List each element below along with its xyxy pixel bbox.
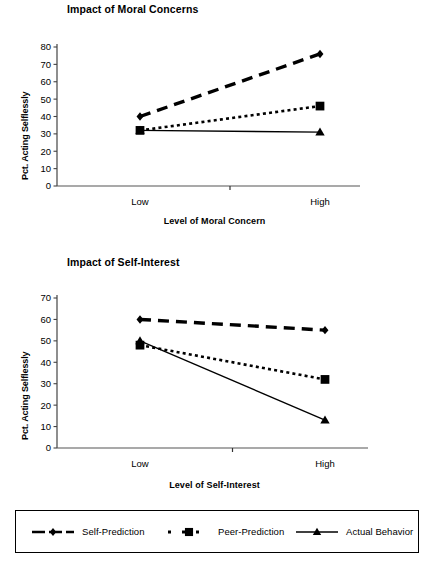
legend-item-peer-prediction[interactable]: Peer-Prediction (166, 525, 284, 539)
series-line-self-prediction (140, 319, 325, 330)
y-tick-label: 60 (40, 76, 51, 87)
y-tick-label: 0 (46, 442, 51, 453)
legend-key-triangle-icon (294, 525, 340, 539)
y-tick-label: 50 (40, 94, 51, 105)
chart-moral-concerns: Impact of Moral Concerns Pct. Acting Sel… (0, 0, 429, 240)
y-tick-label: 20 (40, 400, 51, 411)
x-tick-label: High (315, 458, 335, 469)
y-tick-label: 40 (40, 357, 51, 368)
series-line-actual-behavior (140, 130, 320, 132)
legend-key-diamond-icon (30, 525, 76, 539)
series-peer-prediction-low-square-marker (136, 126, 145, 135)
series-self-prediction-low-diamond-marker (137, 112, 144, 120)
series-self-prediction-high-diamond-marker (317, 50, 324, 58)
y-tick-label: 50 (40, 335, 51, 346)
legend-item-self-prediction[interactable]: Self-Prediction (30, 525, 145, 539)
y-tick-label: 40 (40, 111, 51, 122)
series-self-prediction-high-diamond-marker (322, 326, 329, 334)
series-line-peer-prediction (140, 345, 325, 379)
y-tick-label: 30 (40, 378, 51, 389)
series-line-self-prediction (140, 54, 320, 117)
x-tick-label: High (310, 196, 330, 207)
chart1-plot-area: 01020304050607080LowHigh (0, 0, 429, 240)
chart-self-interest: Impact of Self-Interest Pct. Acting Self… (0, 248, 429, 503)
y-tick-label: 60 (40, 314, 51, 325)
series-line-actual-behavior (140, 341, 325, 420)
x-tick-label: Low (131, 458, 149, 469)
legend-square-marker (185, 527, 193, 535)
legend: Self-PredictionPeer-PredictionActual Beh… (15, 510, 419, 553)
series-peer-prediction-high-square-marker (321, 375, 330, 384)
legend-label: Actual Behavior (346, 526, 413, 537)
legend-key-square-icon (166, 525, 212, 539)
legend-label: Self-Prediction (82, 526, 145, 537)
series-actual-behavior-high-triangle-marker (320, 415, 329, 423)
y-tick-label: 0 (46, 180, 51, 191)
legend-label: Peer-Prediction (218, 526, 284, 537)
series-peer-prediction-low-square-marker (136, 341, 145, 350)
y-tick-label: 70 (40, 59, 51, 70)
y-tick-label: 80 (40, 41, 51, 52)
y-tick-label: 10 (40, 421, 51, 432)
chart2-plot-area: 010203040506070LowHigh (0, 248, 429, 503)
y-tick-label: 10 (40, 163, 51, 174)
series-self-prediction-low-diamond-marker (137, 315, 144, 323)
x-tick-label: Low (131, 196, 149, 207)
y-tick-label: 70 (40, 292, 51, 303)
chart2-x-axis-label: Level of Self-Interest (0, 480, 429, 490)
y-tick-label: 30 (40, 128, 51, 139)
y-tick-label: 20 (40, 146, 51, 157)
chart1-x-axis-label: Level of Moral Concern (0, 216, 429, 226)
legend-diamond-marker (50, 528, 56, 536)
series-peer-prediction-high-square-marker (316, 102, 325, 111)
series-actual-behavior-high-triangle-marker (315, 127, 324, 135)
legend-item-actual-behavior[interactable]: Actual Behavior (294, 525, 413, 539)
series-line-peer-prediction (140, 106, 320, 130)
